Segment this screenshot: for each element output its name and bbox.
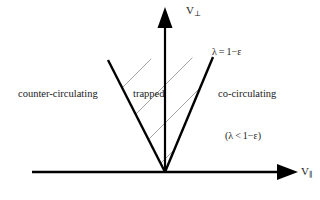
region-label-co-circulating: co-circulating [218,89,276,100]
v-perpendicular-axis-arrowhead [158,7,173,28]
v-parallel-axis-arrowhead [277,164,298,180]
v-parallel-symbol: V [301,165,309,177]
separatrix-left-arm [108,60,165,172]
phase-space-diagram-figure: V⊥ V∥ λ = 1−ε (λ < 1−ε) counter-circulat… [0,0,320,200]
lambda-inequality-label: (λ < 1−ε) [225,131,261,141]
separatrix-right-arm [165,57,213,172]
v-perpendicular-subscript: ⊥ [194,9,201,18]
region-label-trapped: trapped [133,89,165,100]
v-perpendicular-symbol: V [186,4,194,16]
trapped-region-hatching [60,35,294,200]
v-perpendicular-axis-label: V⊥ [186,5,201,17]
region-label-counter-circulating: counter-circulating [18,89,98,100]
v-parallel-axis-label: V∥ [301,166,312,178]
diagram-canvas [0,0,320,200]
lambda-equation-label: λ = 1−ε [212,47,241,57]
v-parallel-subscript: ∥ [309,170,312,179]
